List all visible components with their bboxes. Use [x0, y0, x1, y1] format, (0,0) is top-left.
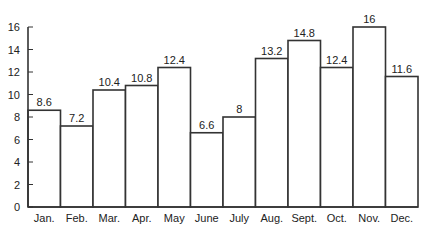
- bar: [288, 41, 321, 208]
- y-tick-label: 16: [8, 21, 20, 33]
- data-label: 7.2: [69, 112, 84, 124]
- bar: [158, 68, 191, 208]
- data-label: 11.6: [391, 63, 412, 75]
- y-tick-label: 4: [14, 156, 20, 168]
- x-tick-label: May: [164, 212, 185, 224]
- y-tick-label: 12: [8, 66, 20, 78]
- chart-canvas: 8.6Jan.7.2Feb.10.4Mar.10.8Apr.12.4May6.6…: [0, 0, 425, 231]
- x-tick-label: Dec.: [390, 212, 413, 224]
- y-tick-label: 10: [8, 89, 20, 101]
- bar: [256, 59, 289, 208]
- bar: [223, 117, 256, 207]
- data-label: 14.8: [294, 27, 315, 39]
- x-tick-label: Nov.: [358, 212, 380, 224]
- x-tick-label: Oct.: [327, 212, 347, 224]
- x-tick-label: July: [229, 212, 249, 224]
- x-tick-label: Feb.: [66, 212, 88, 224]
- x-tick-label: Jan.: [34, 212, 55, 224]
- x-tick-label: Sept.: [291, 212, 317, 224]
- y-tick-label: 2: [14, 179, 20, 191]
- bar: [61, 126, 94, 207]
- x-tick-label: Apr.: [132, 212, 152, 224]
- x-tick-label: June: [195, 212, 219, 224]
- data-label: 8.6: [37, 96, 52, 108]
- bar: [28, 110, 61, 207]
- bar: [353, 27, 386, 207]
- y-tick-label: 14: [8, 44, 20, 56]
- data-label: 10.8: [131, 72, 152, 84]
- data-label: 13.2: [261, 45, 282, 57]
- x-tick-label: Mar.: [99, 212, 120, 224]
- y-tick-label: 6: [14, 134, 20, 146]
- bar-chart: 8.6Jan.7.2Feb.10.4Mar.10.8Apr.12.4May6.6…: [0, 0, 425, 231]
- data-label: 16: [363, 13, 375, 25]
- data-label: 12.4: [164, 54, 185, 66]
- data-label: 6.6: [199, 119, 214, 131]
- data-label: 8: [236, 103, 242, 115]
- bar: [126, 86, 159, 208]
- bar: [386, 77, 419, 208]
- x-tick-label: Aug.: [260, 212, 283, 224]
- y-tick-label: 8: [14, 111, 20, 123]
- bar: [321, 68, 354, 208]
- data-label: 10.4: [99, 76, 120, 88]
- data-label: 12.4: [326, 54, 347, 66]
- bar: [93, 90, 126, 207]
- bar: [191, 133, 224, 207]
- y-tick-label: 0: [14, 201, 20, 213]
